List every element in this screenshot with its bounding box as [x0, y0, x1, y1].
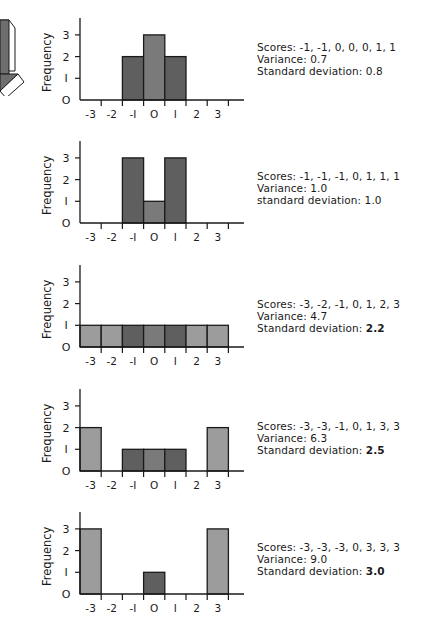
histogram-chart: OI23-3-2-IOI23	[0, 123, 250, 247]
y-tick-label: 2	[63, 298, 70, 311]
sd-label: Standard deviation:	[257, 65, 362, 77]
x-tick-label: -3	[85, 231, 95, 243]
histogram-bar	[144, 572, 165, 594]
y-tick-label: O	[62, 341, 71, 354]
sd-value: 1.0	[365, 194, 382, 206]
histogram-bar	[122, 158, 143, 223]
sd-label: Standard deviation:	[257, 322, 362, 334]
x-tick-label: -2	[107, 355, 117, 367]
histogram-bar	[80, 428, 101, 471]
y-tick-label: 2	[63, 545, 70, 558]
x-tick-label: 3	[214, 602, 221, 614]
histogram-chart: OI23-3-2-IOI23	[0, 0, 250, 124]
x-tick-label: O	[150, 479, 158, 491]
y-tick-label: O	[62, 588, 71, 601]
histogram-chart: OI23-3-2-IOI23	[0, 247, 250, 371]
standard-deviation-text: Standard deviation: 2.2	[257, 322, 400, 334]
x-tick-label: -I	[130, 355, 137, 367]
x-tick-label: I	[174, 479, 177, 491]
x-tick-label: 2	[193, 231, 200, 243]
x-tick-label: I	[174, 231, 177, 243]
x-tick-label: -3	[85, 479, 95, 491]
x-tick-label: 2	[193, 355, 200, 367]
y-axis-label: Frequency	[40, 33, 54, 92]
standard-deviation-text: standard deviation: 1.0	[257, 194, 400, 206]
variance-text: Variance: 4.7	[257, 310, 400, 322]
histogram-bar	[122, 449, 143, 471]
variance-text: Variance: 6.3	[257, 432, 400, 444]
x-tick-label: -3	[85, 108, 95, 120]
x-tick-label: -2	[107, 108, 117, 120]
histogram-bar	[122, 325, 143, 347]
y-axis-label: Frequency	[40, 280, 54, 339]
histogram-bar	[144, 449, 165, 471]
y-tick-label: O	[62, 465, 71, 478]
x-tick-label: 3	[214, 355, 221, 367]
y-tick-label: 3	[63, 276, 70, 289]
variance-text: Variance: 9.0	[257, 553, 400, 565]
y-tick-label: 3	[63, 400, 70, 413]
histogram-bar	[144, 325, 165, 347]
variance-text: Variance: 1.0	[257, 182, 400, 194]
y-tick-label: I	[64, 72, 67, 85]
histogram-bar	[80, 529, 101, 594]
x-tick-label: -2	[107, 231, 117, 243]
sd-label: standard deviation:	[257, 194, 361, 206]
histogram-bar	[207, 428, 228, 471]
y-tick-label: 2	[63, 51, 70, 64]
x-tick-label: I	[174, 602, 177, 614]
y-tick-label: I	[64, 195, 67, 208]
x-tick-label: 2	[193, 108, 200, 120]
histogram-panel-4: OI23-3-2-IOI23FrequencyScores: -3, -3, -…	[0, 371, 447, 495]
sd-label: Standard deviation:	[257, 444, 362, 456]
x-tick-label: 2	[193, 479, 200, 491]
x-tick-label: 3	[214, 108, 221, 120]
x-tick-label: O	[150, 355, 158, 367]
histogram-panel-1: OI23-3-2-IOI23FrequencyScores: -1, -1, 0…	[0, 0, 447, 124]
y-tick-label: I	[64, 319, 67, 332]
variance-text: Variance: 0.7	[257, 53, 396, 65]
histogram-bar	[101, 325, 122, 347]
standard-deviation-text: Standard deviation: 3.0	[257, 565, 400, 577]
x-tick-label: -I	[130, 108, 137, 120]
histogram-bar	[165, 325, 186, 347]
x-tick-label: -2	[107, 602, 117, 614]
scores-text: Scores: -3, -2, -1, 0, 1, 2, 3	[257, 298, 400, 310]
y-axis-label: Frequency	[40, 156, 54, 215]
histogram-panel-3: OI23-3-2-IOI23FrequencyScores: -3, -2, -…	[0, 247, 447, 371]
y-tick-label: 2	[63, 174, 70, 187]
scores-text: Scores: -1, -1, 0, 0, 0, 1, 1	[257, 41, 396, 53]
histogram-bar	[80, 325, 101, 347]
histogram-chart: OI23-3-2-IOI23	[0, 371, 250, 495]
histogram-bar	[144, 201, 165, 223]
stats-block: Scores: -1, -1, -1, 0, 1, 1, 1Variance: …	[257, 170, 400, 206]
y-axis-label: Frequency	[40, 527, 54, 586]
stats-block: Scores: -3, -3, -3, 0, 3, 3, 3Variance: …	[257, 541, 400, 577]
x-tick-label: 2	[193, 602, 200, 614]
scores-text: Scores: -1, -1, -1, 0, 1, 1, 1	[257, 170, 400, 182]
histogram-chart: OI23-3-2-IOI23	[0, 494, 250, 618]
y-axis-label: Frequency	[40, 404, 54, 463]
y-tick-label: I	[64, 566, 67, 579]
y-tick-label: 3	[63, 29, 70, 42]
x-tick-label: O	[150, 231, 158, 243]
y-tick-label: 3	[63, 152, 70, 165]
sd-value: 2.5	[366, 444, 385, 456]
x-tick-label: 3	[214, 479, 221, 491]
sd-label: Standard deviation:	[257, 565, 362, 577]
x-tick-label: O	[150, 602, 158, 614]
x-tick-label: I	[174, 355, 177, 367]
stats-block: Scores: -3, -3, -1, 0, 1, 3, 3Variance: …	[257, 420, 400, 456]
x-tick-label: -I	[130, 479, 137, 491]
stats-block: Scores: -3, -2, -1, 0, 1, 2, 3Variance: …	[257, 298, 400, 334]
y-tick-label: I	[64, 443, 67, 456]
sd-value: 2.2	[366, 322, 385, 334]
y-tick-label: 3	[63, 523, 70, 536]
standard-deviation-text: Standard deviation: 2.5	[257, 444, 400, 456]
histogram-bar	[165, 57, 186, 100]
x-tick-label: -I	[130, 231, 137, 243]
scores-text: Scores: -3, -3, -3, 0, 3, 3, 3	[257, 541, 400, 553]
x-tick-label: -I	[130, 602, 137, 614]
histogram-bar	[165, 449, 186, 471]
x-tick-label: O	[150, 108, 158, 120]
